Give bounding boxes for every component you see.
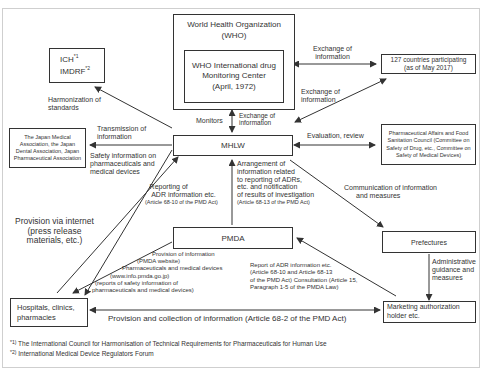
prefectures-label: Prefectures: [411, 239, 447, 246]
hospitals-line1: Hospitals, clinics,: [17, 303, 75, 313]
imdrf-label: IMDRF*2: [60, 66, 90, 77]
who-abbr: (WHO): [174, 31, 294, 41]
associations-line2: Association, the Japan: [20, 141, 75, 148]
mah-line2: holder etc.: [387, 312, 420, 321]
hospitals-box: Hospitals, clinics, pharmacies: [10, 298, 88, 327]
label-safety-info: Safety information onpharmaceuticals and…: [90, 152, 156, 176]
label-evaluation: Evaluation, review: [307, 132, 364, 140]
mah-line1: Marketing authorization: [387, 303, 460, 312]
council-box: Pharmaceutical Affairs and Food Sanitati…: [381, 124, 476, 165]
label-adr-reporting: Reporting of ADR information etc. (Artic…: [145, 183, 218, 205]
countries-line2: (as of May 2017): [404, 64, 453, 72]
hospitals-line2: pharmacies: [17, 313, 56, 323]
label-admin-guidance: Administrativeguidance andmeasures: [432, 258, 476, 282]
label-mhlw-who: Exchange ofinformation: [239, 112, 275, 126]
label-communication: Communication of informationand measures: [344, 184, 437, 201]
who-monitoring-center-box: WHO International drug Monitoring Center…: [184, 50, 284, 103]
prefectures-box: Prefectures: [382, 231, 476, 253]
council-line3: Safety of Drug, etc., Committee on: [386, 145, 470, 152]
label-harmonization: Harmonization ofstandards: [48, 96, 101, 113]
countries-line1: 127 countries participating: [391, 56, 467, 64]
mah-box: Marketing authorization holder etc.: [383, 301, 476, 323]
who-center-line3: (April, 1972): [212, 82, 256, 92]
label-mhlw-countries: Exchange ofinformation: [301, 88, 340, 105]
label-who-countries: Exchange ofinformation: [313, 45, 352, 62]
council-line2: Sanitation Council (Committee on: [388, 137, 470, 144]
label-mah-report: Report of ADR information etc.(Article 6…: [250, 262, 357, 291]
footnote-1: *1) The International Council for Harmon…: [10, 340, 327, 348]
label-monitors: Monitors: [196, 117, 223, 125]
pmda-label: PMDA: [221, 234, 244, 243]
countries-box: 127 countries participating (as of May 2…: [381, 54, 476, 74]
council-line4: Safety of Medical Devices): [396, 152, 461, 159]
who-box: World Health Organization (WHO) WHO Inte…: [173, 14, 295, 110]
associations-line4: Pharmaceutical Association: [14, 155, 81, 162]
ich-label: ICH*1: [60, 54, 79, 65]
label-provision-collection: Provision and collection of information …: [108, 314, 346, 324]
mhlw-label: MHLW: [221, 141, 245, 150]
council-line1: Pharmaceutical Affairs and Food: [389, 130, 468, 137]
who-center-line1: WHO International drug: [192, 61, 276, 71]
label-pmda-provision: Provision of information (PMDA website) …: [92, 251, 222, 294]
label-transmission: Transmission ofinformation: [97, 125, 146, 142]
footnote-2: *2) International Medical Device Regulat…: [10, 350, 154, 358]
ich-imdrf-box: ICH*1 IMDRF*2: [49, 48, 105, 83]
associations-box: The Japan Medical Association, the Japan…: [9, 128, 86, 168]
label-arrangement: Arrangement ofinformation relatedto repo…: [237, 160, 314, 205]
mhlw-box: MHLW: [173, 135, 293, 156]
pmda-box: PMDA: [173, 227, 293, 249]
who-center-line2: Monitoring Center: [202, 71, 266, 81]
associations-line3: Dental Association, Japan: [16, 148, 79, 155]
associations-line1: The Japan Medical: [24, 134, 70, 141]
who-title: World Health Organization: [174, 20, 294, 30]
label-internet: Provision via internet(press releasemate…: [15, 217, 94, 246]
